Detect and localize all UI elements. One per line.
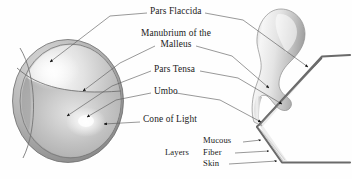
- label-umbo: Umbo: [154, 87, 178, 97]
- membrane-surface-group: [12, 40, 125, 163]
- label-manubrium-line2: Malleus: [128, 40, 224, 50]
- label-pars-flaccida: Pars Flaccida: [150, 7, 202, 17]
- leader-mucous: [243, 140, 261, 142]
- label-manubrium-line1: Manubrium of the: [128, 29, 224, 39]
- diagram-canvas: Pars Flaccida Manubrium of the Malleus P…: [0, 0, 352, 179]
- label-cone-of-light: Cone of Light: [143, 115, 197, 125]
- label-pars-tensa: Pars Tensa: [154, 65, 195, 75]
- label-layer-skin: Skin: [203, 159, 219, 168]
- cone-of-light-core: [78, 115, 94, 127]
- label-layer-mucous: Mucous: [203, 136, 231, 145]
- label-layers-group: Layers: [165, 148, 189, 157]
- leader-skin: [229, 161, 277, 164]
- label-layer-fiber: Fiber: [203, 148, 222, 157]
- leader-fiber: [235, 151, 269, 153]
